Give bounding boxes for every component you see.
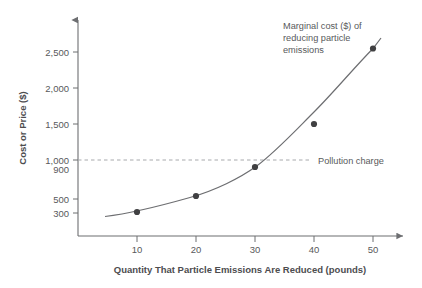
data-point-10 <box>134 209 140 215</box>
chart-container: 2,500 2,000 1,500 1,000 900 500 300 10 2… <box>0 0 422 288</box>
curve-label-line3: emissions <box>283 45 324 55</box>
y-tick-label-2000: 2,000 <box>45 83 69 94</box>
x-tick-label-20: 20 <box>191 244 202 255</box>
y-tick-label-500: 500 <box>53 194 69 205</box>
marginal-cost-chart: 2,500 2,000 1,500 1,000 900 500 300 10 2… <box>0 0 422 288</box>
x-axis-title: Quantity That Particle Emissions Are Red… <box>114 264 367 275</box>
data-point-50 <box>370 45 376 51</box>
data-point-30 <box>252 164 258 170</box>
data-point-40 <box>311 121 317 127</box>
marginal-cost-curve <box>105 38 381 217</box>
curve-label-line2: reducing particle <box>283 33 350 43</box>
pollution-charge-label: Pollution charge <box>318 156 384 166</box>
curve-label-line1: Marginal cost ($) of <box>283 21 362 31</box>
y-tick-label-1500: 1,500 <box>45 119 69 130</box>
x-tick-label-40: 40 <box>309 244 320 255</box>
x-tick-label-50: 50 <box>368 244 379 255</box>
y-tick-label-900: 900 <box>53 164 69 175</box>
data-point-20 <box>193 193 199 199</box>
y-axis-title: Cost or Price ($) <box>17 91 28 164</box>
x-tick-label-30: 30 <box>250 244 261 255</box>
x-tick-label-10: 10 <box>132 244 143 255</box>
y-tick-label-300: 300 <box>53 208 69 219</box>
y-tick-label-2500: 2,500 <box>45 47 69 58</box>
